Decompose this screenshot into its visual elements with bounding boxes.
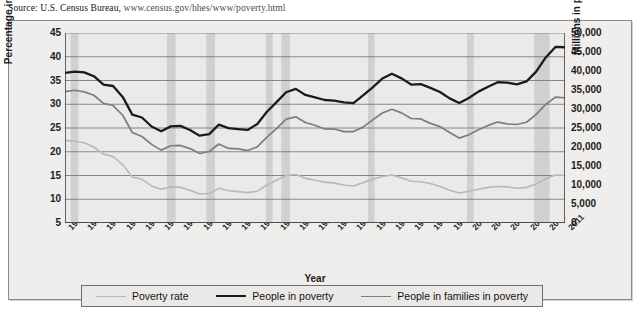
y-axis-right-tick-label: 45,000 — [571, 46, 602, 57]
plot-area — [65, 33, 565, 223]
chart-screenshot: Source: U.S. Census Bureau, www.census.g… — [0, 0, 640, 312]
series-line-people-in-families-in-poverty — [65, 90, 565, 153]
legend-swatch-line-icon — [96, 296, 126, 297]
figure-frame: Percentage in poverty Millions in povert… — [8, 20, 632, 300]
y-axis-left-tick-label: 45 — [50, 27, 61, 38]
y-axis-left-tick-label: 10 — [50, 193, 61, 204]
y-axis-left-tick-label: 5 — [55, 217, 61, 228]
y-axis-left-tick-label: 30 — [50, 98, 61, 109]
legend-item-2[interactable]: People in families in poverty — [361, 290, 528, 302]
legend-swatch-line-icon — [216, 295, 246, 297]
legend-item-1[interactable]: People in poverty — [216, 290, 333, 302]
y-axis-right-tick-label: 10,000 — [571, 179, 602, 190]
y-axis-right-tick-label: 30,000 — [571, 103, 602, 114]
legend-swatch-line-icon — [361, 296, 391, 297]
source-url: www.census.gov/hhes/www/poverty.html — [123, 3, 285, 13]
y-axis-right-tick-label: 5,000 — [571, 198, 596, 209]
y-axis-left-title: Percentage in poverty — [3, 0, 14, 71]
y-axis-right-tick-label: 25,000 — [571, 122, 602, 133]
y-axis-right-tick-label: 20,000 — [571, 141, 602, 152]
y-axis-left-tick-label: 20 — [50, 146, 61, 157]
y-axis-right-tick-label: 35,000 — [571, 84, 602, 95]
y-axis-right-ticks: 05,00010,00015,00020,00025,00030,00035,0… — [571, 33, 615, 223]
plot-svg — [65, 33, 565, 223]
y-axis-left-tick-label: 40 — [50, 51, 61, 62]
y-axis-left-tick-label: 15 — [50, 170, 61, 181]
series-line-people-in-poverty — [65, 47, 565, 136]
legend-item-0[interactable]: Poverty rate — [96, 290, 189, 302]
y-axis-right-tick-label: 15,000 — [571, 160, 602, 171]
source-caption: Source: U.S. Census Bureau, www.census.g… — [8, 3, 286, 13]
y-axis-left-tick-label: 25 — [50, 122, 61, 133]
y-axis-left-ticks: 51015202530354045 — [29, 33, 61, 223]
legend-label: People in poverty — [252, 290, 333, 302]
series-line-poverty-rate — [65, 140, 565, 194]
chart-legend: Poverty ratePeople in povertyPeople in f… — [81, 285, 543, 307]
y-axis-right-tick-label: 40,000 — [571, 65, 602, 76]
legend-label: Poverty rate — [132, 290, 189, 302]
legend-label: People in families in poverty — [397, 290, 528, 302]
source-label: Source: U.S. Census Bureau, — [8, 3, 121, 13]
x-axis-title: Year — [65, 273, 565, 284]
y-axis-right-tick-label: 50,000 — [571, 27, 602, 38]
x-axis-ticks: 1959196119631965196719691971197319751977… — [65, 225, 575, 273]
y-axis-left-tick-label: 35 — [50, 75, 61, 86]
